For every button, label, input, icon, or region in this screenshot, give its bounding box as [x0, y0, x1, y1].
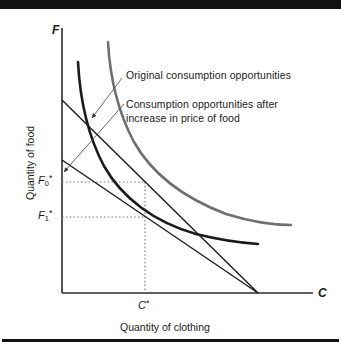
y-axis-letter: F — [52, 24, 59, 36]
f1-symbol: F — [38, 209, 45, 221]
budget-line-original — [62, 160, 258, 293]
f0-symbol: F — [38, 174, 45, 186]
c-star-superscript: * — [146, 298, 150, 308]
annotation-after-price-increase-line1: Consumption opportunities after — [126, 99, 278, 110]
f1-superscript: * — [49, 208, 53, 218]
annotation-after-price-increase-line2: increase in price of food — [126, 113, 240, 124]
f0-superscript: * — [49, 173, 53, 183]
f1-tick-label: F1* — [38, 209, 52, 223]
annotation-original-consumption-opportunities: Original consumption opportunities — [126, 70, 291, 81]
y-axis-title: Quantity of food — [25, 126, 36, 200]
budget-line-after-price-increase — [62, 100, 258, 293]
economics-figure: F C F0* F1* C* Original consumption oppo… — [0, 0, 341, 347]
f0-tick-label: F0* — [38, 174, 52, 188]
x-axis-title: Quantity of clothing — [120, 322, 210, 333]
leader-line-after-price-increase — [64, 104, 124, 172]
x-axis-letter: C — [318, 287, 327, 299]
c-star-tick-label: C* — [138, 299, 149, 311]
c-star-symbol: C — [138, 299, 146, 311]
